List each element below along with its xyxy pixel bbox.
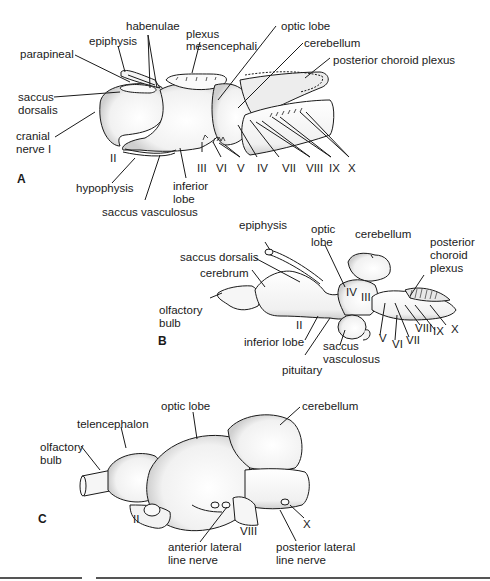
label-cranial-nerve-line1: cranial bbox=[16, 130, 50, 143]
label-optic-lobe: optic lobe bbox=[281, 20, 330, 33]
label-b-epiphysis: epiphysis bbox=[239, 219, 287, 232]
label-b-saccus-vasculosus-line1: saccus bbox=[323, 340, 359, 353]
label-b-nerve-v: V bbox=[379, 332, 387, 345]
label-b-olfactory-bulb-line2: bulb bbox=[159, 317, 181, 330]
label-b-nerve-ix: IX bbox=[433, 325, 444, 338]
footer-rule-left bbox=[0, 577, 82, 579]
label-b-nerve-vi: VI bbox=[392, 338, 403, 351]
label-b-nerve-x: X bbox=[451, 323, 459, 336]
label-nerve-viii: VIII bbox=[306, 162, 323, 175]
label-c-telencephalon: telencephalon bbox=[77, 418, 149, 431]
label-b-optic-lobe-line1: optic bbox=[311, 223, 335, 236]
label-inferior-lobe-line2: lobe bbox=[173, 193, 195, 206]
label-nerve-iv: IV bbox=[257, 162, 268, 175]
label-b-nerve-iii: III bbox=[361, 291, 371, 304]
label-saccus-dorsalis-line2: dorsalis bbox=[18, 104, 58, 117]
label-nerve-ii: II bbox=[110, 152, 116, 165]
label-b-nerve-ii: II bbox=[296, 319, 302, 332]
label-b-optic-lobe-line2: lobe bbox=[311, 236, 333, 249]
label-b-cerebellum: cerebellum bbox=[355, 228, 411, 241]
label-c-posterior-lateral-line-line2: line nerve bbox=[276, 554, 326, 567]
label-b-cerebrum: cerebrum bbox=[200, 267, 249, 280]
label-cerebellum: cerebellum bbox=[304, 37, 360, 50]
label-b-inferior-lobe: inferior lobe bbox=[244, 336, 304, 349]
label-plexus-mesencephali-line2: mesencephali bbox=[186, 40, 257, 53]
label-saccus-vasculosus: saccus vasculosus bbox=[102, 206, 198, 219]
label-habenulae: habenulae bbox=[126, 20, 180, 33]
label-c-nerve-ii: II bbox=[133, 513, 139, 526]
label-nerve-ix: IX bbox=[329, 162, 340, 175]
brain-anatomy-figure: A habenulae epiphysis parapineal plexus … bbox=[0, 0, 490, 581]
footer-rule-right bbox=[96, 577, 490, 579]
label-c-anterior-lateral-line-line2: line nerve bbox=[168, 554, 218, 567]
label-b-olfactory-bulb-line1: olfactory bbox=[159, 304, 202, 317]
label-nerve-x: X bbox=[348, 162, 356, 175]
label-nerve-vii: VII bbox=[282, 162, 296, 175]
panel-a-letter: A bbox=[17, 172, 26, 186]
panel-c-letter: C bbox=[38, 512, 47, 526]
label-epiphysis: epiphysis bbox=[89, 35, 137, 48]
label-c-olfactory-bulb-line2: bulb bbox=[40, 454, 62, 467]
label-c-nerve-x: X bbox=[303, 518, 311, 531]
label-hypophysis: hypophysis bbox=[76, 182, 134, 195]
label-b-nerve-iv: IV bbox=[346, 286, 357, 299]
label-b-nerve-viii: VIII bbox=[415, 322, 432, 335]
label-plexus-mesencephali-line1: plexus bbox=[186, 28, 219, 41]
label-saccus-dorsalis-line1: saccus bbox=[18, 91, 54, 104]
label-b-nerve-vii: VII bbox=[406, 334, 420, 347]
label-b-choroid-plexus-line1: posterior bbox=[430, 236, 475, 249]
label-nerve-iii: III bbox=[197, 162, 207, 175]
label-c-nerve-viii: VIII bbox=[240, 525, 257, 538]
label-nerve-vi: VI bbox=[216, 162, 227, 175]
brain-drawings bbox=[0, 0, 490, 581]
label-b-choroid-plexus-line3: plexus bbox=[430, 262, 463, 275]
label-parapineal: parapineal bbox=[20, 48, 74, 61]
label-c-optic-lobe: optic lobe bbox=[161, 400, 210, 413]
label-nerve-v: V bbox=[237, 162, 245, 175]
label-c-olfactory-bulb-line1: olfactory bbox=[40, 441, 83, 454]
label-b-pituitary: pituitary bbox=[282, 364, 322, 377]
label-c-anterior-lateral-line-line1: anterior lateral bbox=[168, 541, 242, 554]
label-b-saccus-dorsalis: saccus dorsalis bbox=[180, 251, 259, 264]
label-b-saccus-vasculosus-line2: vasculosus bbox=[323, 353, 380, 366]
label-cranial-nerve-line2: nerve I bbox=[16, 143, 51, 156]
panel-b-letter: B bbox=[158, 334, 167, 348]
label-posterior-choroid-plexus: posterior choroid plexus bbox=[333, 54, 455, 67]
label-c-cerebellum: cerebellum bbox=[302, 400, 358, 413]
label-c-posterior-lateral-line-line1: posterior lateral bbox=[276, 541, 355, 554]
label-b-choroid-plexus-line2: choroid bbox=[430, 249, 468, 262]
label-inferior-lobe-line1: inferior bbox=[173, 180, 208, 193]
